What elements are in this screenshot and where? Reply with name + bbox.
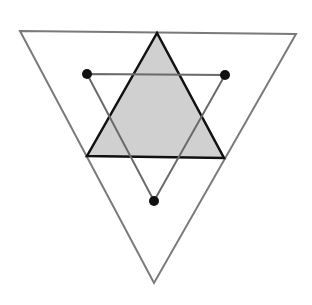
shaded-triangle xyxy=(87,33,224,158)
point-marker xyxy=(220,70,230,80)
point-marker xyxy=(82,69,92,79)
triangle-diagram xyxy=(0,0,312,305)
point-marker xyxy=(149,196,159,206)
